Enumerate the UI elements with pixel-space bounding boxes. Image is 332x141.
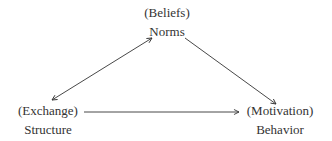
node-behavior: (Motivation) Behavior — [236, 101, 324, 139]
node-behavior-label: Behavior — [236, 120, 324, 139]
diagram-canvas: (Beliefs) Norms (Exchange) Structure (Mo… — [0, 0, 332, 141]
edge-structure-norms — [52, 38, 152, 100]
node-norms-qualifier: (Beliefs) — [127, 3, 207, 22]
edge-norms-behavior — [185, 38, 276, 104]
node-structure: (Exchange) Structure — [8, 101, 88, 139]
node-behavior-qualifier: (Motivation) — [236, 101, 324, 120]
node-structure-label: Structure — [8, 120, 88, 139]
node-norms-label: Norms — [127, 22, 207, 41]
node-norms: (Beliefs) Norms — [127, 3, 207, 41]
node-structure-qualifier: (Exchange) — [8, 101, 88, 120]
